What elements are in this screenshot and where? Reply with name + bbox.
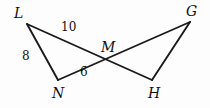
measure-label-LN: 8	[22, 50, 30, 62]
vertex-label-M: M	[101, 40, 115, 54]
vertex-label-N: N	[52, 86, 64, 100]
vertex-label-G: G	[186, 4, 197, 18]
vertex-label-L: L	[14, 6, 23, 20]
geometry-figure: L G M N H 10 8 6	[0, 0, 210, 108]
segment-L-N	[27, 24, 58, 80]
segment-L-H	[27, 24, 152, 80]
measure-label-LM: 10	[61, 21, 76, 33]
measure-label-NM: 6	[80, 66, 88, 78]
vertex-label-H: H	[148, 86, 160, 100]
